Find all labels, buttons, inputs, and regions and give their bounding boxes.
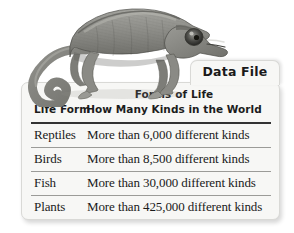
table-title: Forms of Life — [84, 88, 264, 100]
column-header-how-many-kinds: How Many Kinds in the World — [84, 103, 264, 115]
table-container: Forms of Life Life Form How Many Kinds i… — [22, 83, 279, 219]
data-file-tab-label: Data File — [203, 66, 268, 80]
chameleon-head — [165, 26, 228, 58]
column-header-life-form: Life Form — [34, 103, 90, 115]
chameleon-pupil — [194, 35, 199, 40]
data-file-figure: Data File Forms of Life Life Form How Ma… — [0, 0, 294, 233]
chameleon-tail-highlight — [35, 48, 86, 86]
chameleon-belly-shadow — [74, 49, 184, 67]
chameleon-body-texture — [70, 9, 210, 57]
data-file-tab: Data File — [190, 60, 280, 85]
cell-kinds: More than 30,000 different kinds — [87, 175, 256, 191]
chameleon-mouth — [207, 44, 225, 47]
table-row-rule — [31, 171, 271, 172]
chameleon-snout-highlight — [208, 40, 224, 42]
table-header-row: Life Form How Many Kinds in the World — [22, 103, 279, 119]
table-header-rule — [31, 122, 271, 124]
chameleon-back-highlight — [84, 13, 176, 32]
chameleon-body — [70, 9, 210, 57]
table-row: Plants More than 425,000 different kinds — [22, 197, 279, 219]
cell-life-form: Reptiles — [34, 127, 76, 143]
cell-kinds: More than 425,000 different kinds — [87, 199, 262, 215]
cell-life-form: Fish — [34, 175, 56, 191]
cell-kinds: More than 6,000 different kinds — [87, 127, 249, 143]
chameleon-crest — [78, 11, 180, 33]
data-file-card: Forms of Life Life Form How Many Kinds i… — [21, 82, 280, 220]
cell-kinds: More than 8,500 different kinds — [87, 151, 249, 167]
chameleon-eye — [185, 29, 203, 46]
cell-life-form: Birds — [34, 151, 62, 167]
table-row-rule — [31, 195, 271, 196]
table-row: Fish More than 30,000 different kinds — [22, 173, 279, 195]
table-row: Reptiles More than 6,000 different kinds — [22, 125, 279, 147]
chameleon-casque — [176, 25, 202, 34]
chameleon-eye-highlight — [189, 31, 193, 35]
cell-life-form: Plants — [34, 199, 65, 215]
table-row: Birds More than 8,500 different kinds — [22, 149, 279, 171]
chameleon-flank-shading — [96, 17, 164, 58]
table-row-rule — [31, 147, 271, 148]
